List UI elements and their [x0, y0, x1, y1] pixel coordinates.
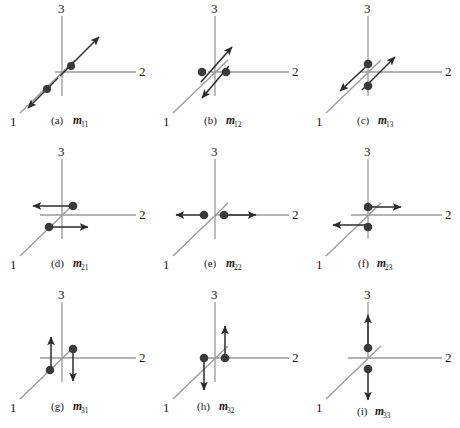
panel-e-m22: 3 2 1 (e) m 22 — [153, 143, 306, 286]
panel-caption: (f) m 23 — [358, 257, 393, 272]
axis-label-3: 3 — [58, 287, 65, 302]
axis-triad — [173, 16, 289, 113]
axis-triad — [20, 302, 136, 399]
caption-index: (i) — [357, 405, 368, 418]
force-dot — [198, 68, 207, 77]
panel-caption: (e) m 22 — [204, 257, 242, 272]
tensor-components-figure: 3 2 1 (a) m 11 — [0, 0, 460, 428]
panel-caption: (c) m 13 — [357, 114, 394, 129]
panel-caption: (g) m 31 — [51, 400, 89, 415]
force-dot — [364, 365, 373, 374]
force-dot — [220, 211, 229, 220]
axis-label-2: 2 — [139, 350, 146, 365]
axis-label-2: 2 — [292, 207, 299, 222]
force-dot — [364, 223, 373, 232]
caption-subscript: 22 — [234, 263, 242, 272]
caption-index: (a) — [51, 114, 64, 127]
panel-caption: (d) m 21 — [51, 257, 89, 272]
axis-label-3: 3 — [58, 144, 65, 159]
axis-label-2: 2 — [139, 207, 146, 222]
panel-b-m12: 3 2 1 (b) m 12 — [153, 0, 306, 143]
caption-index: (g) — [51, 400, 64, 413]
force-dot — [67, 62, 75, 70]
caption-index: (b) — [204, 114, 217, 127]
panel-a-m11: 3 2 1 (a) m 11 — [0, 0, 153, 143]
panel-c-m13: 3 2 1 (c) m 13 — [306, 0, 459, 143]
force-dot — [69, 202, 78, 211]
caption-subscript: 31 — [81, 406, 89, 415]
force-dot — [46, 366, 55, 375]
panel-caption: (i) m 33 — [357, 405, 391, 420]
force-dot — [222, 68, 231, 77]
caption-subscript: 21 — [81, 263, 89, 272]
force-dot — [43, 85, 51, 93]
axis-label-3: 3 — [211, 1, 218, 16]
caption-index: (h) — [197, 400, 210, 413]
caption-subscript: 32 — [227, 406, 235, 415]
force-dot — [200, 354, 209, 363]
axis-label-2: 2 — [445, 207, 452, 222]
axis-triad — [326, 16, 442, 113]
axis-label-3: 3 — [58, 1, 65, 16]
force-dot — [45, 223, 54, 232]
force-dot — [364, 82, 373, 91]
axis-label-1: 1 — [163, 257, 170, 272]
caption-index: (f) — [358, 257, 369, 270]
panel-caption: (b) m 12 — [204, 114, 242, 129]
axis-triad — [173, 159, 289, 256]
panel-h-m32: 3 2 1 (h) m 32 — [153, 286, 306, 428]
force-dot — [69, 345, 78, 354]
axis-label-1: 1 — [10, 257, 17, 272]
axis-label-2: 2 — [445, 64, 452, 79]
force-dot — [200, 211, 209, 220]
panel-caption: (a) m 11 — [51, 114, 88, 129]
caption-index: (d) — [51, 257, 64, 270]
axis-label-3: 3 — [364, 1, 371, 16]
panel-g-m31: 3 2 1 (g) m 31 — [0, 286, 153, 428]
force-dot — [364, 60, 373, 69]
caption-subscript: 33 — [383, 411, 391, 420]
panel-f-m23: 3 2 1 (f) m 23 — [306, 143, 459, 286]
axis-label-1: 1 — [163, 400, 170, 415]
caption-index: (e) — [204, 257, 217, 270]
force-dot — [364, 344, 373, 353]
panel-caption: (h) m 32 — [197, 400, 235, 415]
caption-subscript: 12 — [234, 120, 242, 129]
caption-index: (c) — [357, 114, 370, 127]
force-dot — [364, 203, 373, 212]
axis-label-1: 1 — [10, 114, 17, 129]
axis-label-3: 3 — [364, 144, 371, 159]
axis-label-1: 1 — [316, 114, 323, 129]
axis-label-1: 1 — [316, 400, 323, 415]
force-dot — [221, 354, 230, 363]
axis-label-1: 1 — [316, 257, 323, 272]
caption-subscript: 11 — [81, 120, 88, 129]
axis-label-2: 2 — [292, 350, 299, 365]
axis-triad — [173, 302, 289, 399]
axis-label-3: 3 — [211, 144, 218, 159]
axis-label-2: 2 — [292, 64, 299, 79]
axis-triad — [326, 302, 442, 399]
axis-label-2: 2 — [445, 350, 452, 365]
axis-label-1: 1 — [10, 400, 17, 415]
axis-label-1: 1 — [163, 114, 170, 129]
caption-subscript: 23 — [385, 263, 393, 272]
axis-label-3: 3 — [211, 287, 218, 302]
caption-subscript: 13 — [386, 120, 394, 129]
panel-i-m33: 3 2 1 (i) m 33 — [306, 286, 459, 428]
axis-triad — [20, 159, 136, 256]
panel-d-m21: 3 2 1 (d) m 21 — [0, 143, 153, 286]
axis-label-3: 3 — [364, 287, 371, 302]
axis-label-2: 2 — [139, 64, 146, 79]
